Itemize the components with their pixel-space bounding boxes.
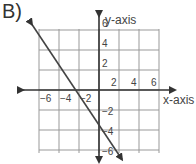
coordinate-plane: −6−4−2246642−2−4−6y-axisx-axis: [0, 0, 196, 164]
y-tick-label: 4: [102, 38, 108, 49]
x-tick-label: 6: [151, 77, 157, 88]
y-tick-label: −2: [102, 106, 114, 117]
x-axis-label: x-axis: [163, 93, 194, 107]
x-tick-label: 4: [131, 77, 137, 88]
x-tick-label: −4: [60, 93, 72, 104]
x-tick-label: 2: [111, 77, 117, 88]
y-axis-label: y-axis: [105, 13, 136, 27]
y-tick-label: −6: [102, 146, 114, 157]
graphed-line: [32, 25, 122, 160]
x-tick-label: −6: [40, 93, 52, 104]
y-tick-label: 2: [102, 58, 108, 69]
